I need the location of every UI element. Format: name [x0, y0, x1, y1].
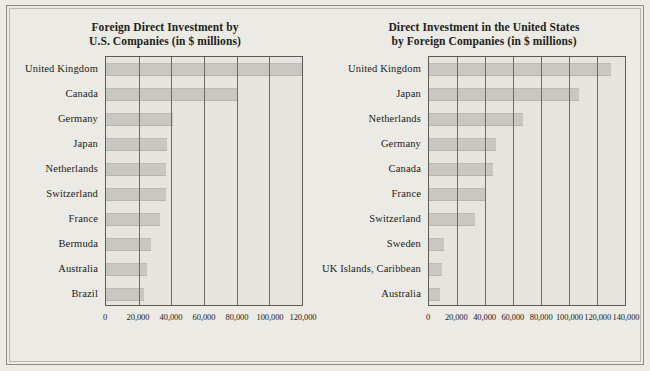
category-label-row: Japan	[330, 81, 425, 106]
x-tick-label: 120,000	[290, 312, 317, 322]
x-tick-label: 100,000	[257, 312, 284, 322]
category-label: Switzerland	[369, 213, 421, 224]
bar-row	[429, 257, 625, 282]
category-label-row: Sweden	[330, 231, 425, 256]
category-label: Japan	[73, 138, 98, 149]
chart-title-line1: Foreign Direct Investment by	[91, 21, 238, 33]
x-tick-label: 40,000	[160, 312, 183, 322]
category-label-row: Netherlands	[12, 156, 102, 181]
category-label: France	[392, 188, 421, 199]
gridline	[513, 57, 514, 305]
x-tick-label: 120,000	[584, 312, 611, 322]
category-label-row: UK Islands, Caribbean	[330, 256, 425, 281]
category-label: Canada	[389, 163, 421, 174]
category-label-row: Germany	[12, 106, 102, 131]
category-label: Sweden	[387, 238, 421, 249]
x-axis-left: 020,00040,00060,00080,000100,000120,000	[105, 312, 303, 330]
bar	[106, 188, 166, 201]
category-label: France	[69, 213, 98, 224]
category-label: Japan	[396, 88, 421, 99]
gridline	[597, 57, 598, 305]
bar	[429, 138, 496, 151]
bar-row	[429, 207, 625, 232]
gridline	[457, 57, 458, 305]
chart-title-line2: by Foreign Companies (in $ millions)	[330, 34, 638, 48]
bar-series-right	[429, 57, 625, 305]
x-tick-label: 20,000	[445, 312, 468, 322]
category-label: United Kingdom	[25, 63, 98, 74]
gridline	[569, 57, 570, 305]
x-axis-right: 020,00040,00060,00080,000100,000120,0001…	[428, 312, 626, 330]
bar	[429, 113, 523, 126]
category-label: Netherlands	[46, 163, 98, 174]
bar-row	[429, 82, 625, 107]
bar	[429, 213, 475, 226]
category-axis-right: United KingdomJapanNetherlandsGermanyCan…	[330, 56, 425, 306]
gridline	[171, 57, 172, 305]
category-label-row: Switzerland	[330, 206, 425, 231]
category-label: Brazil	[71, 288, 98, 299]
category-label: Bermuda	[58, 238, 98, 249]
plot-area-left	[105, 56, 303, 306]
bar	[106, 238, 151, 251]
bar	[429, 163, 493, 176]
category-label-row: Netherlands	[330, 106, 425, 131]
category-label: Australia	[381, 288, 421, 299]
x-tick-label: 140,000	[613, 312, 640, 322]
x-tick-label: 100,000	[556, 312, 583, 322]
bar-row	[429, 107, 625, 132]
chart-foreign-direct-investment-by-us-companies: Foreign Direct Investment by U.S. Compan…	[12, 13, 318, 353]
category-label-row: Canada	[330, 156, 425, 181]
category-label-row: Japan	[12, 131, 102, 156]
figure-page: Foreign Direct Investment by U.S. Compan…	[0, 0, 650, 371]
category-label-row: Australia	[330, 281, 425, 306]
bar-row	[429, 57, 625, 82]
bar	[106, 213, 160, 226]
bar-row	[429, 157, 625, 182]
bar	[106, 263, 147, 276]
bar	[429, 88, 579, 101]
category-label: Germany	[58, 113, 98, 124]
category-label: Australia	[58, 263, 98, 274]
plot-area-right	[428, 56, 626, 306]
category-label-row: France	[330, 181, 425, 206]
chart-title-left: Foreign Direct Investment by U.S. Compan…	[12, 13, 318, 48]
gridline	[541, 57, 542, 305]
x-tick-label: 60,000	[501, 312, 524, 322]
category-label-row: Switzerland	[12, 181, 102, 206]
bar-row	[429, 182, 625, 207]
category-label-row: United Kingdom	[12, 56, 102, 81]
x-tick-label: 0	[103, 312, 107, 322]
category-label: Netherlands	[369, 113, 421, 124]
gridline	[485, 57, 486, 305]
category-label: Canada	[66, 88, 98, 99]
bar	[106, 138, 167, 151]
category-label-row: Canada	[12, 81, 102, 106]
bar	[429, 288, 440, 301]
category-label: Germany	[381, 138, 421, 149]
bar	[429, 263, 442, 276]
x-tick-label: 20,000	[127, 312, 150, 322]
gridline	[237, 57, 238, 305]
bar-row	[429, 232, 625, 257]
category-label: United Kingdom	[348, 63, 421, 74]
category-label-row: France	[12, 206, 102, 231]
category-label: Switzerland	[46, 188, 98, 199]
category-axis-left: United KingdomCanadaGermanyJapanNetherla…	[12, 56, 102, 306]
x-tick-label: 80,000	[530, 312, 553, 322]
bar-row	[429, 282, 625, 307]
x-tick-label: 80,000	[226, 312, 249, 322]
chart-title-right: Direct Investment in the United States b…	[330, 13, 638, 48]
category-label: UK Islands, Caribbean	[322, 263, 421, 274]
gridline	[204, 57, 205, 305]
chart-direct-investment-in-the-united-states: Direct Investment in the United States b…	[330, 13, 638, 353]
category-label-row: Brazil	[12, 281, 102, 306]
chart-title-line2: U.S. Companies (in $ millions)	[12, 34, 318, 48]
bar-row	[429, 132, 625, 157]
x-tick-label: 60,000	[193, 312, 216, 322]
gridline	[139, 57, 140, 305]
gridline	[269, 57, 270, 305]
bar	[429, 238, 444, 251]
category-label-row: United Kingdom	[330, 56, 425, 81]
category-label-row: Australia	[12, 256, 102, 281]
